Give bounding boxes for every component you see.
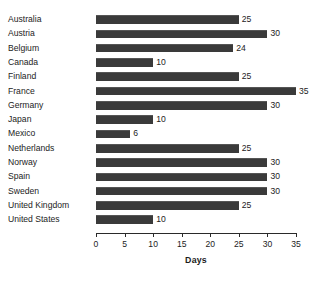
bar-value-label: 25: [239, 141, 252, 155]
x-axis-tick: [210, 233, 211, 237]
bar-row: Mexico6: [0, 126, 323, 140]
bar-track: 10: [96, 55, 323, 69]
bar: [96, 187, 267, 196]
bar-track: 25: [96, 198, 323, 212]
bar-track: 30: [96, 155, 323, 169]
bar-track: 35: [96, 84, 323, 98]
plot-area: Australia25Austria30Belgium24Canada10Fin…: [0, 12, 323, 228]
bar: [96, 158, 267, 167]
category-label: Belgium: [0, 41, 88, 55]
x-axis-tick: [125, 233, 126, 237]
bar-row: United Kingdom25: [0, 198, 323, 212]
bar-value-label: 30: [267, 169, 280, 183]
bar-track: 30: [96, 26, 323, 40]
category-label: Mexico: [0, 126, 88, 140]
bar: [96, 30, 267, 39]
bar: [96, 101, 267, 110]
bar: [96, 72, 239, 81]
x-axis-tick: [239, 233, 240, 237]
bar-track: 24: [96, 41, 323, 55]
bar-value-label: 30: [267, 98, 280, 112]
x-axis-tick-label: 15: [167, 239, 197, 249]
x-axis-tick: [267, 233, 268, 237]
bar-track: 25: [96, 12, 323, 26]
bar-track: 30: [96, 184, 323, 198]
x-axis-tick: [153, 233, 154, 237]
bar-value-label: 25: [239, 12, 252, 26]
bar: [96, 87, 296, 96]
category-label: United Kingdom: [0, 198, 88, 212]
bar-track: 10: [96, 212, 323, 226]
x-axis-tick-label: 30: [252, 239, 282, 249]
bar-row: Japan10: [0, 112, 323, 126]
bar-track: 30: [96, 169, 323, 183]
bar-row: France35: [0, 84, 323, 98]
x-axis-line: [96, 233, 296, 234]
category-label: Canada: [0, 55, 88, 69]
category-label: Spain: [0, 169, 88, 183]
bar: [96, 58, 153, 67]
x-axis-tick-label: 5: [110, 239, 140, 249]
bar-value-label: 10: [153, 212, 166, 226]
bar-track: 6: [96, 126, 323, 140]
bar-row: Canada10: [0, 55, 323, 69]
category-label: Australia: [0, 12, 88, 26]
bar: [96, 215, 153, 224]
x-axis-title: Days: [96, 255, 296, 265]
bar-value-label: 10: [153, 112, 166, 126]
bar: [96, 44, 233, 53]
bar-row: United States10: [0, 212, 323, 226]
bar-row: Austria30: [0, 26, 323, 40]
bar-row: Spain30: [0, 169, 323, 183]
bar-value-label: 35: [296, 84, 309, 98]
bar-row: Norway30: [0, 155, 323, 169]
bar: [96, 115, 153, 124]
bar-row: Belgium24: [0, 41, 323, 55]
category-label: Germany: [0, 98, 88, 112]
category-label: Netherlands: [0, 141, 88, 155]
bar-value-label: 24: [233, 41, 246, 55]
bar-value-label: 10: [153, 55, 166, 69]
category-label: France: [0, 84, 88, 98]
category-label: Japan: [0, 112, 88, 126]
chart-title: [0, 0, 323, 9]
category-label: Sweden: [0, 184, 88, 198]
x-axis-tick: [296, 233, 297, 237]
category-label: Norway: [0, 155, 88, 169]
category-label: Austria: [0, 26, 88, 40]
bar-chart-figure: Australia25Austria30Belgium24Canada10Fin…: [0, 0, 323, 281]
bar-value-label: 25: [239, 69, 252, 83]
x-axis-tick-label: 25: [224, 239, 254, 249]
bar-value-label: 25: [239, 198, 252, 212]
bar-value-label: 30: [267, 184, 280, 198]
bar: [96, 130, 130, 139]
bar-track: 30: [96, 98, 323, 112]
category-label: United States: [0, 212, 88, 226]
x-axis-tick-label: 0: [81, 239, 111, 249]
bar-row: Sweden30: [0, 184, 323, 198]
bar: [96, 144, 239, 153]
x-axis-tick: [96, 233, 97, 237]
category-label: Finland: [0, 69, 88, 83]
bar-row: Germany30: [0, 98, 323, 112]
x-axis: Days 05101520253035: [0, 233, 323, 281]
x-axis-tick-label: 10: [138, 239, 168, 249]
bar-track: 25: [96, 141, 323, 155]
bar-row: Finland25: [0, 69, 323, 83]
bar: [96, 173, 267, 182]
bar: [96, 201, 239, 210]
x-axis-tick-label: 20: [195, 239, 225, 249]
x-axis-tick: [182, 233, 183, 237]
bar-track: 25: [96, 69, 323, 83]
bar-value-label: 30: [267, 155, 280, 169]
x-axis-tick-label: 35: [281, 239, 311, 249]
bar-value-label: 30: [267, 26, 280, 40]
bar: [96, 15, 239, 24]
bar-track: 10: [96, 112, 323, 126]
bar-row: Australia25: [0, 12, 323, 26]
bar-row: Netherlands25: [0, 141, 323, 155]
bar-value-label: 6: [130, 126, 138, 140]
